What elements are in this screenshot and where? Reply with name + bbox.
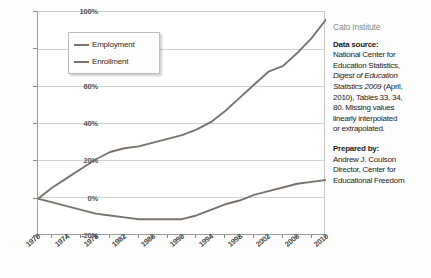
y-axis-tick-label: 100%	[38, 7, 98, 16]
x-axis-labels: 1970197419781982198619901994199820022006…	[0, 240, 340, 278]
info-panel: Cato Institute Data source: National Cen…	[333, 22, 429, 186]
y-axis-tick-label: 40%	[38, 119, 98, 128]
data-source-title-line: Digest of Education	[333, 71, 429, 82]
x-axis-tick	[282, 235, 283, 238]
prepared-by-block: Prepared by: Andrew J. Coulson Director,…	[333, 144, 429, 186]
y-axis-tick-label: 60%	[38, 82, 98, 91]
y-axis-tick-label: 20%	[38, 156, 98, 165]
data-source-line: linearly interpolated	[333, 114, 429, 125]
y-axis-tick	[33, 86, 37, 87]
chart-legend: Employment Enrollment	[68, 32, 160, 74]
legend-item-employment: Employment	[74, 40, 134, 49]
legend-label: Enrollment	[92, 57, 128, 66]
prepared-by-line: Andrew J. Coulson	[333, 155, 429, 166]
y-axis-tick	[33, 160, 37, 161]
x-axis-tick	[195, 235, 196, 238]
y-axis-tick	[33, 123, 37, 124]
prepared-by-line: Educational Freedom	[333, 176, 429, 187]
organization-name: Cato Institute	[333, 22, 429, 33]
x-axis-tick	[109, 235, 110, 238]
data-source-line: or extrapolated.	[333, 124, 429, 135]
legend-swatch-icon	[74, 61, 89, 63]
y-axis-tick	[33, 11, 37, 12]
data-source-label: Data source:	[333, 40, 429, 51]
y-axis-tick-label: 0%	[38, 194, 98, 203]
data-source-line: 2010), Tables 33, 34,	[333, 93, 429, 104]
y-axis-tick	[33, 198, 37, 199]
x-axis-tick	[224, 235, 225, 238]
prepared-by-label: Prepared by:	[333, 144, 429, 155]
y-axis-tick	[33, 48, 37, 49]
line-chart: 100%80%60%40%20%0%-20% 19701974197819821…	[0, 0, 330, 278]
legend-swatch-icon	[74, 44, 89, 46]
prepared-by-line: Director, Center for	[333, 165, 429, 176]
data-source-line: 80. Missing values	[333, 103, 429, 114]
x-axis-tick	[253, 235, 254, 238]
data-source-line: Education Statistics,	[333, 61, 429, 72]
x-axis-tick	[80, 235, 81, 238]
legend-item-enrollment: Enrollment	[74, 57, 128, 66]
chart-figure-root: 100%80%60%40%20%0%-20% 19701974197819821…	[0, 0, 431, 278]
data-source-line: National Center for	[333, 50, 429, 61]
data-source-title-line2: Statistics 2009 (April,	[333, 82, 429, 93]
data-source-title-italic: Statistics 2009	[333, 82, 381, 91]
x-axis-tick	[138, 235, 139, 238]
legend-label: Employment	[92, 40, 134, 49]
data-source-block: Data source: National Center for Educati…	[333, 40, 429, 135]
data-source-title-rest: (April,	[381, 82, 402, 91]
x-axis-tick	[311, 235, 312, 238]
x-axis-tick	[167, 235, 168, 238]
x-axis-tick	[51, 235, 52, 238]
